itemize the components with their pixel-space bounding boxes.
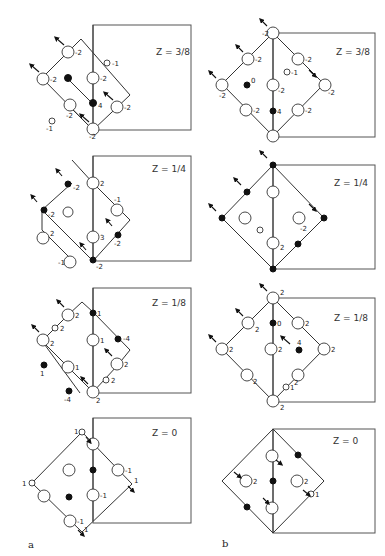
svg-text:-1: -1 xyxy=(77,518,84,526)
svg-text:-2: -2 xyxy=(278,87,285,95)
svg-text:4: 4 xyxy=(277,108,282,116)
svg-text:-1: -1 xyxy=(114,196,121,204)
panel-a-level-1-8: 2 2 1 1 2 2 2 2 1 -4 1 -4 Z = 1/8 xyxy=(33,288,191,405)
svg-text:1: 1 xyxy=(315,491,319,499)
z-label: Z = 1/4 xyxy=(152,164,186,174)
svg-text:1: 1 xyxy=(22,480,26,488)
panel-b-level-3-8: -2 -2 -2 -2 -2 -2 -2 -2 -1 0 4 Z = 3/8 xyxy=(210,20,375,142)
svg-text:2: 2 xyxy=(278,346,282,354)
svg-text:-2: -2 xyxy=(89,133,96,141)
svg-text:-2: -2 xyxy=(255,56,262,64)
svg-text:2: 2 xyxy=(50,340,54,348)
svg-text:-1: -1 xyxy=(58,259,65,267)
svg-text:2: 2 xyxy=(294,379,298,387)
svg-text:-2: -2 xyxy=(305,107,312,115)
svg-text:2: 2 xyxy=(253,478,257,486)
svg-text:4: 4 xyxy=(297,339,302,347)
svg-text:2: 2 xyxy=(253,378,257,386)
panel-label-b: b xyxy=(222,538,228,549)
svg-text:1: 1 xyxy=(75,364,79,372)
panel-a-level-0: -1 -1 -1 1 1 1 1 Z = 0 xyxy=(22,418,191,535)
panel-b-level-1-8: 2 2 2 2 2 2 2 2 2 1 0 4 Z = 1/8 xyxy=(210,285,375,412)
panel-label-a: a xyxy=(28,539,34,550)
svg-text:-2: -2 xyxy=(66,112,73,120)
svg-text:2: 2 xyxy=(304,478,308,486)
svg-text:-2: -2 xyxy=(300,225,307,233)
svg-text:0: 0 xyxy=(251,77,255,85)
svg-text:-2: -2 xyxy=(305,56,312,64)
svg-text:3: 3 xyxy=(100,234,104,242)
svg-text:-2: -2 xyxy=(262,30,269,38)
panel-b-level-0: 2 2 1 Z = 0 xyxy=(222,429,375,533)
svg-text:2: 2 xyxy=(280,244,284,252)
panel-a-level-3-8: -2 -2 -2 -2 -2 -2 -1 -1 4 Z = 3/8 xyxy=(31,25,191,141)
svg-text:2: 2 xyxy=(280,404,284,412)
svg-text:-1: -1 xyxy=(125,467,132,475)
z-label: Z = 1/8 xyxy=(152,298,186,308)
svg-text:-2: -2 xyxy=(48,211,55,219)
svg-text:2: 2 xyxy=(111,377,115,385)
svg-text:4: 4 xyxy=(98,102,103,110)
svg-text:-2: -2 xyxy=(73,184,80,192)
svg-text:1: 1 xyxy=(97,310,101,318)
z-label: Z = 3/8 xyxy=(336,47,370,57)
svg-text:2: 2 xyxy=(75,312,79,320)
svg-text:-2: -2 xyxy=(50,76,57,84)
panel-b-level-1-4: 2 -2 Z = 1/4 xyxy=(210,152,375,272)
z-label: Z = 3/8 xyxy=(156,47,190,57)
svg-text:-1: -1 xyxy=(112,60,119,68)
svg-text:1: 1 xyxy=(290,384,294,392)
svg-text:0: 0 xyxy=(277,320,281,328)
svg-text:-2: -2 xyxy=(100,75,107,83)
svg-text:2: 2 xyxy=(229,346,233,354)
svg-text:-2: -2 xyxy=(114,240,121,248)
svg-text:-2: -2 xyxy=(96,263,103,271)
svg-text:2: 2 xyxy=(60,325,64,333)
z-label: Z = 1/4 xyxy=(334,178,368,188)
svg-text:2: 2 xyxy=(50,230,54,238)
svg-text:-2: -2 xyxy=(219,92,226,100)
svg-text:2: 2 xyxy=(255,326,259,334)
svg-text:2: 2 xyxy=(96,397,100,405)
svg-text:-2: -2 xyxy=(253,107,260,115)
panel-a-level-1-4: 2 2 3 -1 -1 -2 -2 -2 -2 Z = 1/4 xyxy=(32,156,191,271)
z-label: Z = 1/8 xyxy=(334,313,368,323)
crystal-structure-figure: -2 -2 -2 -2 -2 -2 -1 -1 4 Z = 3/8 2 2 3 … xyxy=(0,0,385,556)
unit-cell-box xyxy=(93,25,191,130)
svg-text:1: 1 xyxy=(84,526,88,534)
svg-text:-1: -1 xyxy=(46,125,53,133)
svg-text:-2: -2 xyxy=(124,104,131,112)
svg-text:2: 2 xyxy=(100,180,104,188)
z-label: Z = 0 xyxy=(152,428,177,438)
svg-text:2: 2 xyxy=(124,361,128,369)
svg-text:2: 2 xyxy=(305,320,309,328)
svg-text:-2: -2 xyxy=(75,49,82,57)
svg-text:-1: -1 xyxy=(100,492,107,500)
svg-text:1: 1 xyxy=(40,370,44,378)
svg-text:1: 1 xyxy=(74,428,78,436)
svg-text:2: 2 xyxy=(331,346,335,354)
svg-text:1: 1 xyxy=(134,477,138,485)
svg-text:-4: -4 xyxy=(123,335,131,343)
svg-text:2: 2 xyxy=(280,289,284,297)
svg-text:-2: -2 xyxy=(328,89,335,97)
svg-text:1: 1 xyxy=(100,337,104,345)
svg-text:-4: -4 xyxy=(64,396,72,404)
z-label: Z = 0 xyxy=(333,436,358,446)
svg-text:-1: -1 xyxy=(291,69,298,77)
